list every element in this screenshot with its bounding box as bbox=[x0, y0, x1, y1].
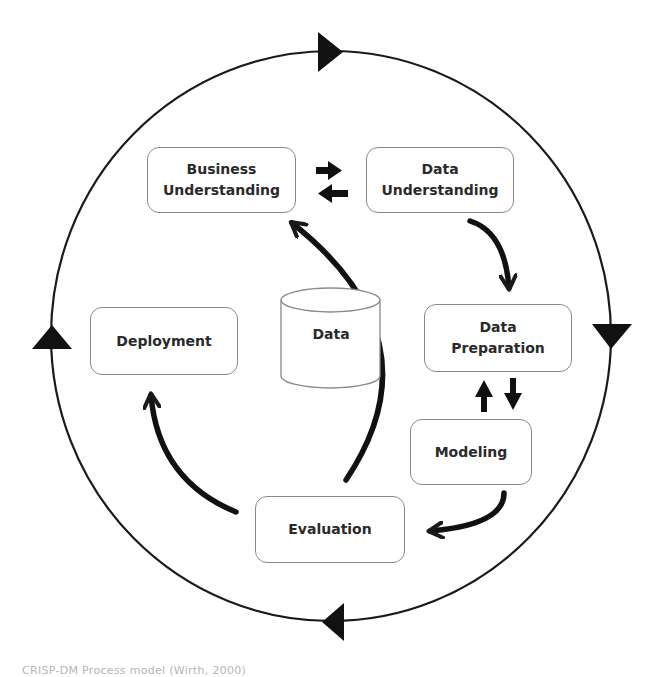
arrow-modeling-to-evaluation-icon bbox=[430, 493, 504, 531]
phase-data-preparation: Data Preparation bbox=[424, 304, 572, 372]
cycle-arrow-left-icon bbox=[32, 325, 72, 349]
data-store-label: Data bbox=[281, 326, 381, 342]
arrow-evaluation-to-deployment-icon bbox=[151, 395, 236, 512]
phase-label-line2: Understanding bbox=[163, 180, 280, 201]
figure-caption: CRISP-DM Process model (Wirth, 2000) bbox=[22, 664, 246, 677]
phase-evaluation: Evaluation bbox=[255, 496, 405, 563]
cycle-arrow-right-icon bbox=[592, 324, 632, 349]
phase-label-line1: Data bbox=[451, 317, 545, 338]
arrow-business-to-data-understanding-icon bbox=[316, 161, 342, 180]
phase-data-understanding: Data Understanding bbox=[366, 147, 514, 213]
arrow-data-to-business-understanding-icon bbox=[318, 184, 348, 203]
phase-modeling: Modeling bbox=[410, 419, 532, 485]
arrow-modeling-to-preparation-icon bbox=[475, 380, 493, 412]
phase-deployment: Deployment bbox=[90, 307, 238, 375]
phase-label-line1: Data bbox=[381, 159, 498, 180]
phase-business-understanding: Business Understanding bbox=[147, 147, 296, 213]
phase-label: Evaluation bbox=[288, 519, 371, 540]
phase-label-line2: Understanding bbox=[381, 180, 498, 201]
phase-label-line1: Business bbox=[163, 159, 280, 180]
cycle-arrow-bottom-icon bbox=[322, 603, 344, 641]
cycle-arrow-top-icon bbox=[318, 32, 343, 72]
phase-label-line2: Preparation bbox=[451, 338, 545, 359]
arrow-preparation-to-modeling-icon bbox=[504, 378, 522, 410]
phase-label: Deployment bbox=[116, 331, 211, 352]
arrow-data-understanding-to-preparation-icon bbox=[470, 221, 509, 288]
phase-label: Modeling bbox=[435, 442, 508, 463]
